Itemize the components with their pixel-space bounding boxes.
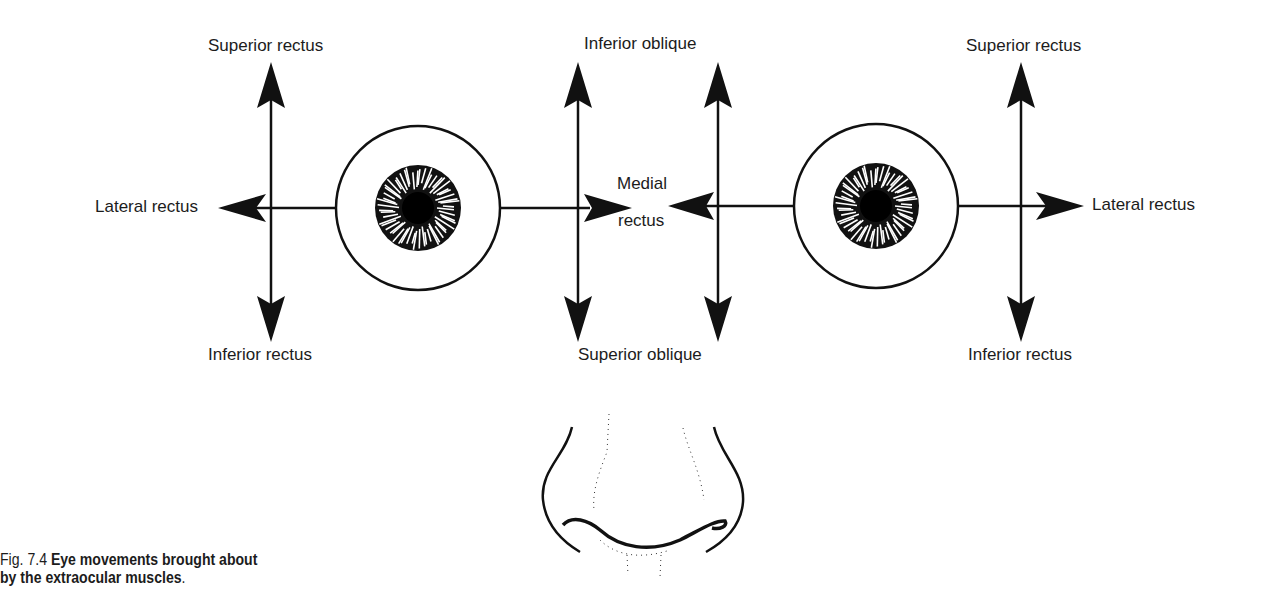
figure-caption: Fig. 7.4 Eye movements brought about by … <box>0 551 257 587</box>
eye-movement-diagram <box>0 0 1264 611</box>
left-eye <box>336 126 500 290</box>
nose-illustration <box>543 414 743 578</box>
iris-fiber <box>839 210 854 211</box>
left-superior-rectus-label: Superior rectus <box>208 36 323 56</box>
caption-text-line2: by the extraocular muscles <box>0 569 182 586</box>
left-iris <box>375 165 461 251</box>
right-iris <box>833 163 919 249</box>
iris-fiber <box>901 204 912 205</box>
left-inferior-rectus-label: Inferior rectus <box>208 345 312 365</box>
medial-rectus-label-line2: rectus <box>618 211 664 231</box>
inferior-oblique-label: Inferior oblique <box>584 34 696 54</box>
right-eye <box>794 124 958 288</box>
iris-fiber <box>381 212 396 213</box>
medial-rectus-label-line1: Medial <box>617 174 667 194</box>
caption-end: . <box>182 569 186 586</box>
left-lateral-rectus-label: Lateral rectus <box>95 197 198 217</box>
superior-oblique-label: Superior oblique <box>578 345 702 365</box>
caption-text: Eye movements brought about <box>51 551 258 568</box>
caption-number: Fig. 7.4 <box>0 551 47 568</box>
right-superior-rectus-label: Superior rectus <box>966 36 1081 56</box>
right-lateral-rectus-label: Lateral rectus <box>1092 195 1195 215</box>
right-inferior-rectus-label: Inferior rectus <box>968 345 1072 365</box>
iris-fiber <box>443 206 454 207</box>
